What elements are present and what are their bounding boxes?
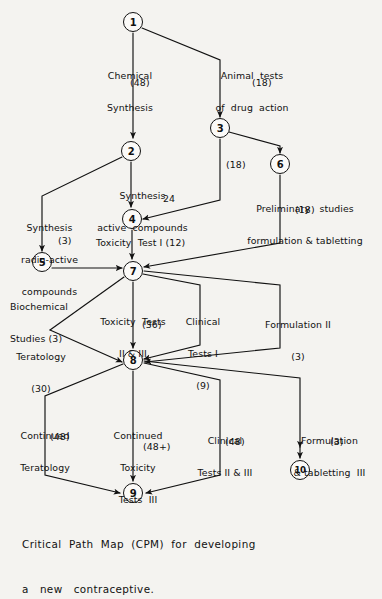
duration-clinical-tests-2-3: (48) [225, 437, 245, 448]
node-1[interactable]: 1 [123, 12, 143, 32]
chemical-synthesis-line2: Synthesis [80, 103, 180, 114]
activity-label-chemical-synthesis: Chemical Synthesis [80, 50, 180, 135]
activity-label-clinical-tests-1: Clinical Tests I (9) [175, 296, 231, 413]
duration-continued-toxicity-3: (48+) [143, 442, 171, 453]
toxicity23-line2: II & III [92, 349, 174, 360]
duration-synthesis-active: 24 [163, 194, 175, 205]
duration-chemical-synthesis: (48) [130, 78, 150, 89]
clinical1-line1: Clinical [175, 317, 231, 328]
clinical1-line2: Tests I [175, 349, 231, 360]
formulation2-duration: (3) [248, 352, 348, 363]
cont-teratology-line1: Continued [3, 431, 87, 442]
cont-toxicity-line3: Tests III [102, 495, 174, 506]
clinical23-line2: Tests II & III [180, 468, 270, 479]
caption-line-1: Critical Path Map (CPM) for developing [22, 537, 256, 552]
formulation2-line1: Formulation II [248, 320, 348, 331]
biochemical-line1: Biochemical [10, 302, 68, 313]
duration-formulation-tabletting-3: (3) [330, 437, 344, 448]
edge-3-6 [229, 132, 280, 153]
activity-label-formulation-tabletting-3: Formulation & tabletting III [277, 415, 382, 500]
node-6[interactable]: 6 [270, 154, 290, 174]
cont-teratology-line2: Teratology [3, 463, 87, 474]
teratology-line1: Teratology [4, 352, 78, 363]
duration-animal-tests: (18) [252, 78, 272, 89]
synthesis-active-line1: Synthesis [80, 191, 205, 202]
duration-continued-teratology: (48) [50, 432, 70, 443]
preliminary-line2: formulation & tabletting [228, 236, 382, 247]
teratology-duration: (30) [4, 384, 78, 395]
synthesis-active-line2: active compounds [80, 223, 205, 234]
node-2[interactable]: 2 [121, 141, 141, 161]
cont-toxicity-line2: Toxicity [102, 463, 174, 474]
activity-label-teratology: Teratology (30) [4, 331, 78, 416]
activity-label-toxicity-tests-2-3: Toxicity Tests II & III [92, 296, 174, 381]
radioactive-line2: radio-active [2, 255, 97, 266]
clinical1-duration: (9) [175, 381, 231, 392]
duration-toxicity-tests-2-3: (36) [142, 320, 162, 331]
animal-tests-line2: of drug action [182, 103, 322, 114]
duration-preliminary-studies: (18) [295, 205, 315, 216]
formulation3-line2: & tabletting III [277, 468, 382, 479]
duration-synthesis-radioactive: (3) [58, 236, 72, 247]
activity-label-preliminary-studies: Preliminary studies formulation & tablet… [228, 183, 382, 268]
activity-label-toxicity-test-1: Toxicity Test I (12) [96, 238, 185, 249]
activity-label-formulation-2: Formulation II (3) [248, 299, 348, 384]
caption-line-2: a new contraceptive. [22, 582, 256, 597]
node-7[interactable]: 7 [123, 261, 143, 281]
radioactive-line1: Synthesis [2, 223, 97, 234]
activity-label-animal-tests: Animal tests of drug action [182, 50, 322, 135]
toxicity23-line1: Toxicity Tests [92, 317, 174, 328]
diagram-caption: Critical Path Map (CPM) for developing a… [22, 507, 256, 599]
duration-dummy-3-4: (18) [226, 160, 246, 171]
activity-label-clinical-tests-2-3: Clinical Tests II & III [180, 415, 270, 500]
activity-label-continued-teratology: Continued Teratology [3, 410, 87, 495]
